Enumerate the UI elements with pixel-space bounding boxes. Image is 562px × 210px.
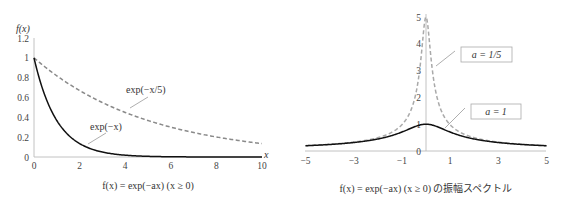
annotation-exp-minus-x: exp(−x)	[90, 121, 122, 133]
y-tick-label: 0.4	[17, 113, 29, 123]
x-tick-label: 5	[544, 156, 549, 166]
y-tick-label: 0.6	[17, 93, 29, 103]
y-tick-label: 2	[416, 93, 421, 103]
legend-label-a-one: a = 1	[485, 106, 507, 117]
annotation-leader-fast	[88, 133, 106, 144]
left-chart-exponential-decay: f(x) x 00.20.40.60.811.2 0246810 exp(−x/…	[16, 23, 269, 192]
x-tick-label: 6	[168, 161, 173, 171]
x-tick-label: 2	[77, 161, 82, 171]
y-tick-label: 0	[416, 147, 421, 157]
y-tick-label: 4	[416, 39, 421, 49]
series-exp-minus-x	[34, 58, 262, 157]
right-chart-amplitude-spectrum: 012345 −5−3−1135 a = 1/5 a = 1 f(x) = ex…	[300, 13, 549, 196]
y-tick-label: 0.2	[17, 133, 29, 143]
right-x-tick-labels: −5−3−1135	[300, 156, 549, 166]
legend-label-a-one-fifth: a = 1/5	[472, 49, 502, 60]
legend-leader-a-one	[445, 108, 465, 128]
figure: f(x) x 00.20.40.60.811.2 0246810 exp(−x/…	[0, 0, 562, 210]
y-tick-label: 1.2	[17, 34, 29, 44]
y-tick-label: 1	[24, 53, 29, 63]
y-tick-label: 0	[24, 153, 29, 163]
x-tick-label: 8	[214, 161, 219, 171]
annotation-exp-minus-x-over-5: exp(−x/5)	[126, 84, 166, 96]
right-caption: f(x) = exp(−ax) (x ≥ 0) の振幅スペクトル	[340, 182, 513, 195]
left-x-tick-labels: 0246810	[32, 161, 267, 171]
series-exp-minus-x-over-5	[34, 58, 262, 144]
x-tick-label: 1	[448, 156, 453, 166]
x-tick-label: 4	[123, 161, 128, 171]
x-tick-label: −5	[300, 156, 310, 166]
x-tick-label: −1	[397, 156, 407, 166]
left-caption: f(x) = exp(−ax) (x ≥ 0)	[102, 180, 193, 192]
y-tick-label: 5	[416, 13, 421, 23]
x-tick-label: 0	[32, 161, 37, 171]
y-tick-label: 0.8	[17, 73, 29, 83]
x-tick-label: −3	[349, 156, 359, 166]
legend-leader-a-one-fifth	[436, 51, 455, 66]
left-x-axis-label: x	[263, 149, 269, 160]
annotation-leader-slow	[130, 97, 148, 108]
x-tick-label: 3	[496, 156, 501, 166]
x-tick-label: 10	[257, 161, 267, 171]
left-y-tick-labels: 00.20.40.60.811.2	[17, 34, 29, 163]
